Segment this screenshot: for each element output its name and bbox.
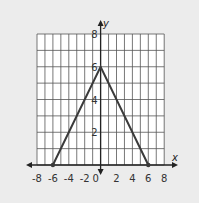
x-tick-label: -4	[64, 173, 74, 184]
y-tick-label: 6	[91, 62, 97, 73]
x-tick-label: -6	[48, 173, 58, 184]
x-tick-label: 6	[145, 173, 151, 184]
x-tick-label: 8	[161, 173, 167, 184]
x-tick-label: 2	[113, 173, 119, 184]
endpoint-dot	[146, 163, 150, 167]
x-tick-label: 0	[92, 173, 98, 184]
y-tick-label: 4	[91, 95, 97, 106]
endpoint-dot	[51, 163, 55, 167]
coordinate-plane: -8-6-4-2024682468 x y	[0, 0, 199, 203]
x-tick-label: -2	[80, 173, 90, 184]
y-tick-label: 8	[91, 29, 97, 40]
y-tick-label: 2	[91, 127, 97, 138]
x-axis-label: x	[171, 152, 178, 163]
x-tick-label: 4	[129, 173, 135, 184]
x-tick-label: -8	[32, 173, 42, 184]
y-axis-label: y	[102, 18, 110, 29]
